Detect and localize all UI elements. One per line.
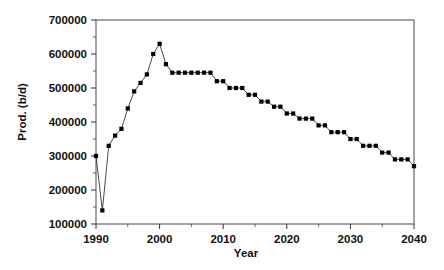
data-point-marker bbox=[259, 100, 263, 104]
data-point-marker bbox=[310, 117, 314, 121]
data-point-marker bbox=[138, 81, 142, 85]
data-point-marker bbox=[342, 130, 346, 134]
data-point-marker bbox=[170, 71, 174, 75]
data-point-marker bbox=[367, 144, 371, 148]
data-point-marker bbox=[399, 157, 403, 161]
data-point-marker bbox=[386, 151, 390, 155]
data-point-marker bbox=[323, 123, 327, 127]
data-point-marker bbox=[393, 157, 397, 161]
data-point-marker bbox=[189, 71, 193, 75]
y-tick-label: 300000 bbox=[49, 150, 87, 162]
data-point-marker bbox=[278, 105, 282, 109]
data-point-marker bbox=[329, 130, 333, 134]
data-point-marker bbox=[126, 106, 130, 110]
data-point-marker bbox=[272, 105, 276, 109]
data-point-marker bbox=[247, 93, 251, 97]
x-tick-label: 1990 bbox=[83, 233, 109, 245]
y-tick-label: 400000 bbox=[49, 116, 87, 128]
data-point-marker bbox=[406, 157, 410, 161]
data-point-marker bbox=[304, 117, 308, 121]
data-point-marker bbox=[145, 72, 149, 76]
data-point-marker bbox=[374, 144, 378, 148]
data-point-marker bbox=[202, 71, 206, 75]
chart-canvas: 1000002000003000004000005000006000007000… bbox=[0, 0, 444, 270]
y-tick-label: 100000 bbox=[49, 218, 87, 230]
data-point-marker bbox=[107, 144, 111, 148]
data-point-marker bbox=[336, 130, 340, 134]
data-point-marker bbox=[412, 164, 416, 168]
data-point-marker bbox=[100, 208, 104, 212]
data-point-marker bbox=[380, 151, 384, 155]
x-tick-label: 2030 bbox=[338, 233, 364, 245]
y-tick-label: 600000 bbox=[49, 48, 87, 60]
data-point-marker bbox=[227, 86, 231, 90]
y-tick-label: 200000 bbox=[49, 184, 87, 196]
data-point-marker bbox=[119, 127, 123, 131]
data-point-marker bbox=[234, 86, 238, 90]
data-point-marker bbox=[196, 71, 200, 75]
data-point-marker bbox=[215, 79, 219, 83]
data-point-marker bbox=[285, 111, 289, 115]
x-tick-label: 2040 bbox=[401, 233, 427, 245]
data-point-marker bbox=[291, 111, 295, 115]
data-point-marker bbox=[164, 62, 168, 66]
x-tick-label: 2010 bbox=[210, 233, 236, 245]
x-tick-label: 2000 bbox=[147, 233, 173, 245]
data-point-marker bbox=[158, 42, 162, 46]
y-tick-label: 700000 bbox=[49, 14, 87, 26]
data-point-marker bbox=[266, 100, 270, 104]
data-point-marker bbox=[355, 137, 359, 141]
data-point-marker bbox=[297, 117, 301, 121]
y-tick-label: 500000 bbox=[49, 82, 87, 94]
data-point-marker bbox=[240, 86, 244, 90]
data-point-marker bbox=[94, 154, 98, 158]
data-point-marker bbox=[253, 93, 257, 97]
x-tick-label: 2020 bbox=[274, 233, 300, 245]
data-point-marker bbox=[183, 71, 187, 75]
data-point-marker bbox=[132, 89, 136, 93]
production-forecast-chart: 1000002000003000004000005000006000007000… bbox=[0, 0, 444, 270]
data-point-marker bbox=[113, 134, 117, 138]
data-point-marker bbox=[208, 71, 212, 75]
data-point-marker bbox=[361, 144, 365, 148]
y-axis-title: Prod. (b/d) bbox=[16, 83, 28, 141]
data-point-marker bbox=[221, 79, 225, 83]
data-point-marker bbox=[151, 52, 155, 56]
data-point-marker bbox=[348, 137, 352, 141]
x-axis-title: Year bbox=[234, 247, 259, 259]
data-point-marker bbox=[177, 71, 181, 75]
data-point-marker bbox=[317, 123, 321, 127]
